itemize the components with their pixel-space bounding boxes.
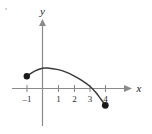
y-axis-label: y	[39, 5, 45, 17]
right-endpoint-dot	[102, 102, 109, 109]
tick-label-3: 3	[88, 94, 93, 104]
graph-figure: –1 1 2 3 4 y x	[0, 0, 152, 134]
coordinate-plot: –1 1 2 3 4 y x	[0, 0, 152, 134]
tick-label-neg1: –1	[22, 94, 32, 104]
x-axis-label: x	[136, 82, 142, 94]
plotted-curve	[27, 68, 106, 105]
left-endpoint-dot	[24, 73, 30, 79]
y-axis-arrowhead	[39, 19, 46, 26]
x-axis-arrowhead	[124, 85, 132, 92]
tick-label-1: 1	[56, 94, 61, 104]
corner-speck-artifact	[5, 8, 7, 10]
tick-label-2: 2	[72, 94, 77, 104]
